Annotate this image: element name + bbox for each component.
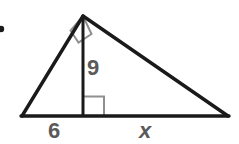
- bullet-point-marker: [0, 26, 4, 32]
- triangle-left-leg: [22, 16, 83, 116]
- geometry-figure: 9 6 x: [0, 0, 239, 144]
- base-right-segment-label: x: [139, 120, 151, 142]
- base-left-segment-label: 6: [48, 120, 60, 142]
- triangle-diagram: [0, 0, 239, 144]
- foot-right-angle-icon: [84, 97, 104, 116]
- altitude-length-label: 9: [87, 57, 99, 79]
